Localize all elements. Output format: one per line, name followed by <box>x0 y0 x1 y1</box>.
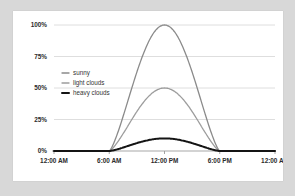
legend-item-light-clouds[interactable]: light clouds <box>62 79 105 87</box>
chart-legend: sunnylight cloudsheavy clouds <box>62 69 110 97</box>
x-axis-tick-labels: 12:00 AM6:00 AM12:00 PM6:00 PM12:00 AM <box>40 151 283 164</box>
series-line-heavy-clouds <box>54 138 275 151</box>
y-tick-label-100: 100% <box>31 21 48 28</box>
x-tick-label-2: 12:00 PM <box>151 157 179 164</box>
y-axis-tick-labels: 0%25%50%75%100% <box>31 21 48 154</box>
y-tick-label-50: 50% <box>34 84 47 91</box>
legend-label-light-clouds: light clouds <box>73 79 105 87</box>
x-tick-label-4: 12:00 AM <box>261 157 283 164</box>
y-tick-label-25: 25% <box>34 116 47 123</box>
chart-card: 0%25%50%75%100% 12:00 AM6:00 AM12:00 PM6… <box>13 11 283 181</box>
chart-canvas: 0%25%50%75%100% 12:00 AM6:00 AM12:00 PM6… <box>13 11 283 181</box>
x-tick-label-3: 6:00 PM <box>208 157 232 164</box>
legend-label-sunny: sunny <box>73 69 91 77</box>
x-tick-label-0: 12:00 AM <box>40 157 68 164</box>
y-tick-label-0: 0% <box>38 147 48 154</box>
legend-item-heavy-clouds[interactable]: heavy clouds <box>62 89 110 97</box>
y-tick-label-75: 75% <box>34 53 47 60</box>
legend-label-heavy-clouds: heavy clouds <box>73 89 110 97</box>
screenshot-root: 0%25%50%75%100% 12:00 AM6:00 AM12:00 PM6… <box>0 0 295 196</box>
solar-output-chart: 0%25%50%75%100% 12:00 AM6:00 AM12:00 PM6… <box>13 11 283 181</box>
legend-item-sunny[interactable]: sunny <box>62 69 91 77</box>
x-tick-label-1: 6:00 AM <box>97 157 121 164</box>
